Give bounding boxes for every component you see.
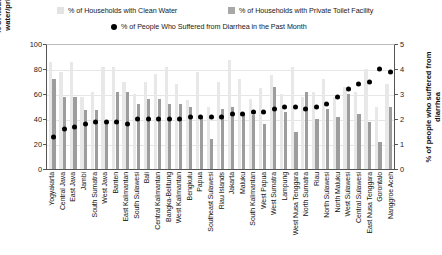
x-axis-label-text: Nanggroe Aceh bbox=[386, 172, 393, 219]
x-axis-label-item: West Java bbox=[99, 171, 110, 255]
bar-category-group bbox=[110, 45, 121, 169]
x-axis-label-item: Yogyakarta bbox=[46, 171, 57, 255]
x-axis-label-item: North Maluku bbox=[332, 171, 343, 255]
bar-category-group bbox=[68, 45, 79, 169]
bar-category-group bbox=[373, 45, 384, 169]
bar-category-group bbox=[79, 45, 90, 169]
x-axis-label-item: Bangka-Belitung bbox=[162, 171, 173, 255]
x-axis-label-text: Central Sulawesi bbox=[355, 172, 362, 223]
bar-category-group bbox=[268, 45, 279, 169]
x-axis-label-item: North Sulawesi bbox=[321, 171, 332, 255]
x-axis-label-item: South Sulawesi bbox=[131, 171, 142, 255]
data-point-diarrhea bbox=[219, 114, 224, 119]
bar-category-group bbox=[152, 45, 163, 169]
x-axis-label-item: Jambi bbox=[78, 171, 89, 255]
bar-private-toilet bbox=[210, 139, 213, 169]
x-axis-label-text: Southeast Sulawesi bbox=[206, 172, 213, 232]
bar-category-group bbox=[257, 45, 268, 169]
x-axis-label-text: East Nusa Tenggara bbox=[365, 172, 372, 234]
bar-category-group bbox=[173, 45, 184, 169]
chart-legend: % of Households with Clean Water % of Ho… bbox=[0, 2, 437, 36]
x-axis-label-text: Central Kalimantan bbox=[154, 172, 161, 230]
x-axis-label-text: Bangka-Belitung bbox=[164, 172, 171, 222]
bar-private-toilet bbox=[357, 114, 360, 169]
bar-private-toilet bbox=[305, 92, 308, 170]
bar-private-toilet bbox=[168, 104, 171, 169]
bar-private-toilet bbox=[242, 113, 245, 169]
y-axis-left-tick-label: 60 bbox=[20, 90, 42, 99]
bar-private-toilet bbox=[336, 117, 339, 170]
bar-category-group bbox=[215, 45, 226, 169]
bar-category-group bbox=[299, 45, 310, 169]
legend-swatch-diarrhea bbox=[111, 24, 117, 30]
y-axis-right-tick-label: 4 bbox=[400, 65, 404, 74]
y-axis-right-tick-label: 2 bbox=[400, 115, 404, 124]
x-axis-label-text: Banten bbox=[111, 172, 118, 194]
legend-swatch-clean-water bbox=[57, 7, 64, 14]
x-axis-label-text: East Kalimantan bbox=[122, 172, 129, 221]
data-point-diarrhea bbox=[209, 114, 214, 119]
bar-private-toilet bbox=[347, 94, 350, 169]
bar-private-toilet bbox=[273, 87, 276, 170]
x-axis-label-text: North Sulawesi bbox=[323, 172, 330, 218]
x-axis-label-item: East Nusa Tenggara bbox=[363, 171, 374, 255]
x-axis-label-text: Gorontalo bbox=[376, 172, 383, 202]
x-axis-label-item: West Kalimantan bbox=[173, 171, 184, 255]
bar-category-group bbox=[384, 45, 395, 169]
x-axis-labels: YogyakartaCentral JavaEast JavaJambiSout… bbox=[46, 171, 395, 255]
y-axis-right-tick-label: 5 bbox=[400, 40, 404, 49]
bar-private-toilet bbox=[179, 104, 182, 169]
x-axis-label-text: Jakarta bbox=[228, 172, 235, 194]
bar-private-toilet bbox=[284, 112, 287, 170]
x-axis-label-item: Lampung bbox=[279, 171, 290, 255]
bar-category-group bbox=[362, 45, 373, 169]
x-axis-label-item: Banten bbox=[109, 171, 120, 255]
x-axis-label-item: Central Kalimantan bbox=[152, 171, 163, 255]
legend-item-private-toilet: % of Households with Private Toilet Faci… bbox=[228, 6, 373, 15]
data-point-diarrhea bbox=[125, 122, 130, 127]
x-axis-label-text: West Java bbox=[101, 172, 108, 204]
bar-private-toilet bbox=[389, 107, 392, 170]
x-axis-label-text: South Sulawesi bbox=[132, 172, 139, 219]
data-point-diarrhea bbox=[346, 87, 351, 92]
x-axis-label-text: Riau Islands bbox=[217, 172, 224, 209]
x-axis-label-item: Bengkulu bbox=[184, 171, 195, 255]
x-axis-label-item: North Sumatra bbox=[300, 171, 311, 255]
bar-private-toilet bbox=[147, 99, 150, 169]
data-point-diarrhea bbox=[324, 102, 329, 107]
data-point-diarrhea bbox=[388, 69, 393, 74]
bar-category-group bbox=[247, 45, 258, 169]
bar-category-group bbox=[194, 45, 205, 169]
x-axis-label-item: East Kalimantan bbox=[120, 171, 131, 255]
bar-category-group bbox=[205, 45, 216, 169]
bar-private-toilet bbox=[52, 79, 55, 169]
bar-private-toilet bbox=[116, 92, 119, 170]
y-axis-right-tick-mark bbox=[395, 169, 398, 170]
bar-category-group bbox=[163, 45, 174, 169]
data-point-diarrhea bbox=[282, 104, 287, 109]
bar-category-group bbox=[310, 45, 321, 169]
y-axis-right-tick-label: 1 bbox=[400, 140, 404, 149]
bar-group bbox=[47, 45, 394, 169]
bar-category-group bbox=[121, 45, 132, 169]
x-axis-label-item: Maluku bbox=[236, 171, 247, 255]
plot-area bbox=[46, 44, 395, 169]
bar-category-group bbox=[47, 45, 58, 169]
data-point-diarrhea bbox=[198, 114, 203, 119]
x-axis-label-text: East Java bbox=[69, 172, 76, 202]
data-point-diarrhea bbox=[188, 114, 193, 119]
data-point-diarrhea bbox=[367, 79, 372, 84]
legend-item-diarrhea: % of People Who Suffered from Diarrhea i… bbox=[111, 22, 307, 31]
data-point-diarrhea bbox=[240, 112, 245, 117]
bar-private-toilet bbox=[158, 99, 161, 169]
x-axis-label-item: West Papua bbox=[258, 171, 269, 255]
x-axis-label-text: North Maluku bbox=[333, 172, 340, 212]
bar-category-group bbox=[341, 45, 352, 169]
bar-private-toilet bbox=[252, 115, 255, 169]
x-axis-label-text: Yogyakarta bbox=[48, 172, 55, 206]
bar-private-toilet bbox=[105, 122, 108, 170]
x-axis-label-item: East Java bbox=[67, 171, 78, 255]
data-point-diarrhea bbox=[251, 109, 256, 114]
data-point-diarrhea bbox=[156, 117, 161, 122]
